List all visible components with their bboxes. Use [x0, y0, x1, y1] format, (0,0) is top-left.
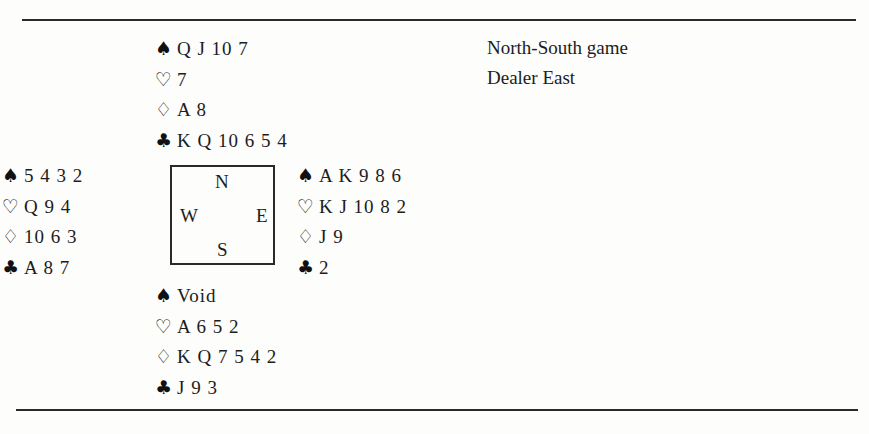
- north-clubs-cards: K Q 10 6 5 4: [177, 130, 288, 151]
- south-diamonds-cards: K Q 7 5 4 2: [177, 346, 277, 367]
- west-spades-cards: 5 4 3 2: [24, 165, 83, 186]
- club-icon: ♣: [297, 252, 319, 283]
- diamond-icon: ♢: [155, 94, 177, 125]
- east-spades: ♠A K 9 8 6: [297, 160, 407, 191]
- north-diamonds: ♢A 8: [155, 94, 288, 125]
- south-clubs-cards: J 9 3: [177, 377, 218, 398]
- deal-info: North-South game Dealer East: [487, 33, 628, 93]
- east-diamonds: ♢J 9: [297, 221, 407, 252]
- bottom-rule: [16, 409, 858, 411]
- diamond-icon: ♢: [2, 221, 24, 252]
- north-spades-cards: Q J 10 7: [177, 38, 249, 59]
- west-clubs-cards: A 8 7: [24, 257, 70, 278]
- south-spades: ♠Void: [155, 280, 277, 311]
- east-clubs-cards: 2: [319, 257, 330, 278]
- south-hand: ♠Void ♡A 6 5 2 ♢K Q 7 5 4 2 ♣J 9 3: [155, 280, 277, 402]
- south-spades-cards: Void: [177, 285, 217, 306]
- west-diamonds: ♢10 6 3: [2, 221, 83, 252]
- compass-south: S: [217, 239, 228, 261]
- compass-box: N W E S: [170, 165, 275, 265]
- compass-east: E: [256, 205, 268, 227]
- south-hearts: ♡A 6 5 2: [155, 311, 277, 342]
- spade-icon: ♠: [2, 160, 24, 191]
- west-clubs: ♣A 8 7: [2, 252, 83, 283]
- west-hearts-cards: Q 9 4: [24, 196, 71, 217]
- west-spades: ♠5 4 3 2: [2, 160, 83, 191]
- west-diamonds-cards: 10 6 3: [24, 226, 78, 247]
- club-icon: ♣: [2, 252, 24, 283]
- south-clubs: ♣J 9 3: [155, 372, 277, 403]
- east-hand: ♠A K 9 8 6 ♡K J 10 8 2 ♢J 9 ♣2: [297, 160, 407, 282]
- north-hand: ♠Q J 10 7 ♡7 ♢A 8 ♣K Q 10 6 5 4: [155, 33, 288, 155]
- south-hearts-cards: A 6 5 2: [177, 316, 239, 337]
- diamond-icon: ♢: [155, 341, 177, 372]
- spade-icon: ♠: [155, 280, 177, 311]
- west-hearts: ♡Q 9 4: [2, 191, 83, 222]
- east-spades-cards: A K 9 8 6: [319, 165, 402, 186]
- east-diamonds-cards: J 9: [319, 226, 344, 247]
- spade-icon: ♠: [297, 160, 319, 191]
- north-clubs: ♣K Q 10 6 5 4: [155, 125, 288, 156]
- north-hearts: ♡7: [155, 64, 288, 95]
- north-spades: ♠Q J 10 7: [155, 33, 288, 64]
- spade-icon: ♠: [155, 33, 177, 64]
- heart-icon: ♡: [297, 191, 319, 222]
- east-hearts-cards: K J 10 8 2: [319, 196, 407, 217]
- east-hearts: ♡K J 10 8 2: [297, 191, 407, 222]
- east-clubs: ♣2: [297, 252, 407, 283]
- dealer-text: Dealer East: [487, 63, 628, 93]
- heart-icon: ♡: [2, 191, 24, 222]
- compass-north: N: [215, 171, 229, 193]
- diamond-icon: ♢: [297, 221, 319, 252]
- south-diamonds: ♢K Q 7 5 4 2: [155, 341, 277, 372]
- north-diamonds-cards: A 8: [177, 99, 207, 120]
- north-hearts-cards: 7: [177, 69, 188, 90]
- club-icon: ♣: [155, 372, 177, 403]
- heart-icon: ♡: [155, 311, 177, 342]
- top-rule: [22, 19, 856, 21]
- heart-icon: ♡: [155, 64, 177, 95]
- club-icon: ♣: [155, 125, 177, 156]
- west-hand: ♠5 4 3 2 ♡Q 9 4 ♢10 6 3 ♣A 8 7: [2, 160, 83, 282]
- vulnerability-text: North-South game: [487, 33, 628, 63]
- compass-west: W: [180, 205, 198, 227]
